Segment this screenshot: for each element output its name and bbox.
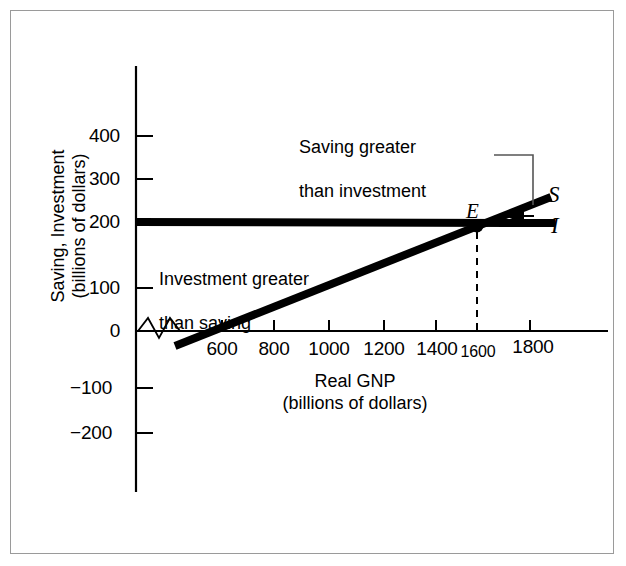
annotation-investment-greater: Investment greater than saving <box>159 246 379 356</box>
x-axis-title: Real GNP (billions of dollars) <box>240 370 470 414</box>
y-tick-label-0: 0 <box>56 320 120 342</box>
y-tick-label-400: 400 <box>56 125 120 147</box>
curve-label-saving: S <box>548 182 560 208</box>
y-tick-label-200: 200 <box>56 211 120 233</box>
annotation-saving-greater-line1: Saving greater <box>299 136 509 158</box>
y-axis-ticks <box>136 136 153 433</box>
annotation-investment-greater-line1: Investment greater <box>159 268 379 290</box>
annotation-investment-greater-line2: than saving <box>159 312 379 334</box>
x-axis-title-line2: (billions of dollars) <box>240 392 470 414</box>
equilibrium-point-label: E <box>466 199 479 224</box>
x-tick-label-1800: 1800 <box>504 336 562 358</box>
figure-container: Saving, Investment (billions of dollars)… <box>0 0 626 566</box>
y-tick-label-neg100: −100 <box>48 377 112 399</box>
y-tick-label-100: 100 <box>56 277 120 299</box>
x-tick-label-1600: 1600 <box>452 343 504 361</box>
y-tick-label-neg200: −200 <box>48 422 112 444</box>
x-axis-title-line1: Real GNP <box>240 370 470 392</box>
y-tick-label-300: 300 <box>56 168 120 190</box>
curve-label-investment: I <box>551 213 559 239</box>
